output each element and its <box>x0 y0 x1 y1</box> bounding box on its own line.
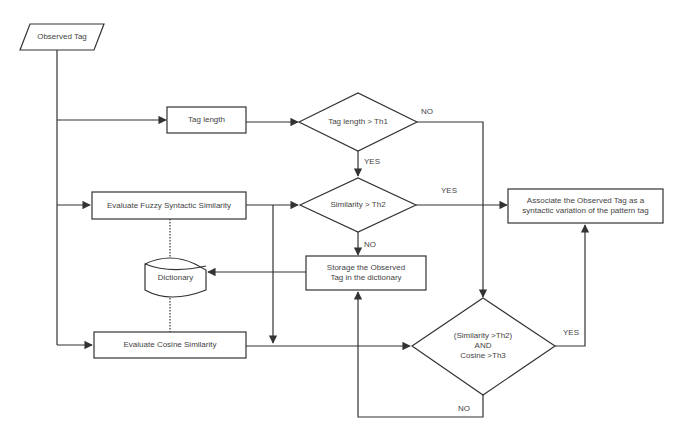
tag-length-no-label: NO <box>421 107 433 116</box>
similarity-no-label: NO <box>364 240 376 249</box>
associate-label: Associate the Observed Tag as a syntacti… <box>508 189 663 223</box>
combined-decision-label: (Similarity >Th2) AND Cosine >Th3 <box>430 326 536 366</box>
combined-no-label: NO <box>458 404 470 413</box>
observed-tag-label: Observed Tag <box>22 24 102 50</box>
associate-label-line2: syntactic variation of the pattern tag <box>522 206 648 216</box>
fuzzy-similarity-label: Evaluate Fuzzy Syntactic Similarity <box>92 192 246 219</box>
storage-label-line1: Storage the Observed <box>327 263 405 273</box>
combined-yes-label: YES <box>563 328 579 337</box>
combined-decision-line3: Cosine >Th3 <box>460 351 506 361</box>
storage-label-line2: Tag in the dictionary <box>330 273 401 283</box>
tag-length-label: Tag length <box>167 107 246 133</box>
dictionary-label: Dictionary <box>145 268 206 288</box>
similarity-yes-label: YES <box>441 186 457 195</box>
combined-decision-line2: AND <box>475 341 492 351</box>
tag-length-decision-label: Tag length > Th1 <box>310 112 406 132</box>
associate-label-line1: Associate the Observed Tag as a <box>527 196 644 206</box>
tag-length-yes-label: YES <box>364 157 380 166</box>
combined-decision-line1: (Similarity >Th2) <box>454 331 512 341</box>
cosine-similarity-label: Evaluate Cosine Similarity <box>94 332 246 358</box>
storage-label: Storage the Observed Tag in the dictiona… <box>306 256 426 290</box>
similarity-decision-label: Similarity > Th2 <box>310 195 406 215</box>
